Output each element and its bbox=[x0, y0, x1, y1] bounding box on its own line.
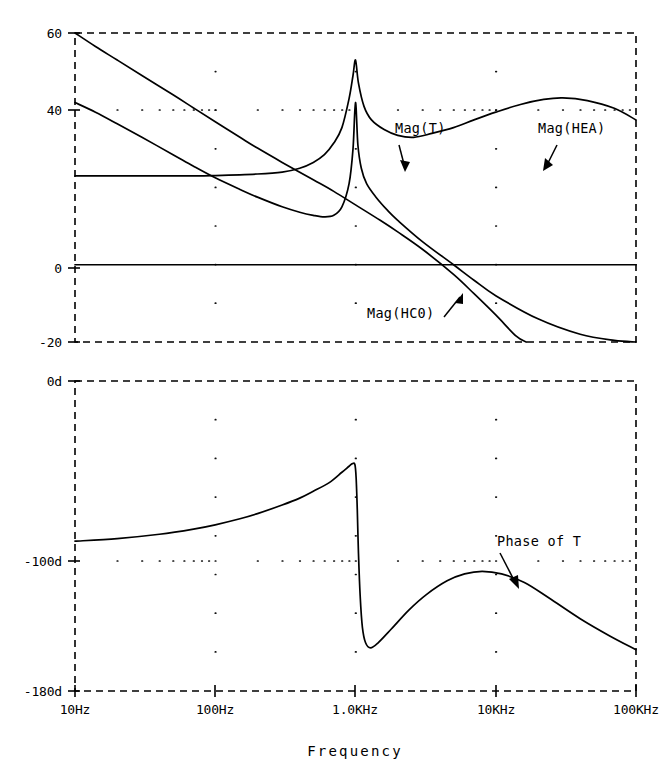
annotation-mag-hc0: Mag(HC0) bbox=[367, 293, 463, 321]
x-axis: 10Hz 100Hz 1.0KHz 10KHz 100KHz Frequency bbox=[60, 685, 659, 759]
magnitude-ytick-label-60: 60 bbox=[47, 26, 62, 41]
bode-plot-figure: 60 40 0 -20 Mag(T) Mag(HEA) Mag(HC0) bbox=[0, 0, 667, 770]
magnitude-panel: 60 40 0 -20 Mag(T) Mag(HEA) Mag(HC0) bbox=[39, 26, 636, 350]
annotation-label-mag-hea: Mag(HEA) bbox=[538, 120, 605, 136]
curve-mag-hc0 bbox=[75, 33, 526, 342]
xtick-label-1khz: 1.0KHz bbox=[332, 702, 378, 717]
curve-mag-t bbox=[75, 103, 636, 342]
phase-ytick-label-0d: 0d bbox=[47, 374, 62, 389]
xtick-label-10hz: 10Hz bbox=[60, 702, 91, 717]
curve-mag-hea bbox=[75, 60, 636, 176]
xtick-label-100hz: 100Hz bbox=[196, 702, 234, 717]
magnitude-y-ticks bbox=[68, 33, 80, 342]
annotation-mag-hea: Mag(HEA) bbox=[538, 120, 605, 171]
phase-panel: 0d -100d -180d Phase of T bbox=[24, 374, 636, 699]
annotation-mag-t: Mag(T) bbox=[395, 120, 446, 172]
magnitude-ytick-label-40: 40 bbox=[47, 103, 62, 118]
xtick-label-100khz: 100KHz bbox=[613, 702, 659, 717]
annotation-label-mag-hc0: Mag(HC0) bbox=[367, 305, 434, 321]
arrowhead-mag-hea bbox=[543, 158, 553, 171]
curve-phase-of-t bbox=[75, 463, 636, 650]
annotation-label-mag-t: Mag(T) bbox=[395, 120, 446, 136]
magnitude-ytick-label-minus20: -20 bbox=[39, 335, 62, 350]
xtick-label-10khz: 10KHz bbox=[477, 702, 515, 717]
magnitude-ytick-label-0: 0 bbox=[54, 261, 62, 276]
arrowhead-mag-hc0 bbox=[455, 293, 463, 304]
phase-ytick-label-minus100d: -100d bbox=[24, 554, 62, 569]
x-axis-title: Frequency bbox=[307, 743, 403, 759]
phase-gridlines-vertical bbox=[215, 420, 496, 652]
annotation-label-phase-of-t: Phase of T bbox=[497, 533, 581, 549]
plot-canvas: 60 40 0 -20 Mag(T) Mag(HEA) Mag(HC0) bbox=[0, 0, 667, 770]
phase-ytick-label-minus180d: -180d bbox=[24, 684, 62, 699]
arrowhead-mag-t bbox=[400, 160, 410, 172]
phase-y-ticks bbox=[68, 381, 80, 691]
phase-curves bbox=[75, 463, 636, 650]
